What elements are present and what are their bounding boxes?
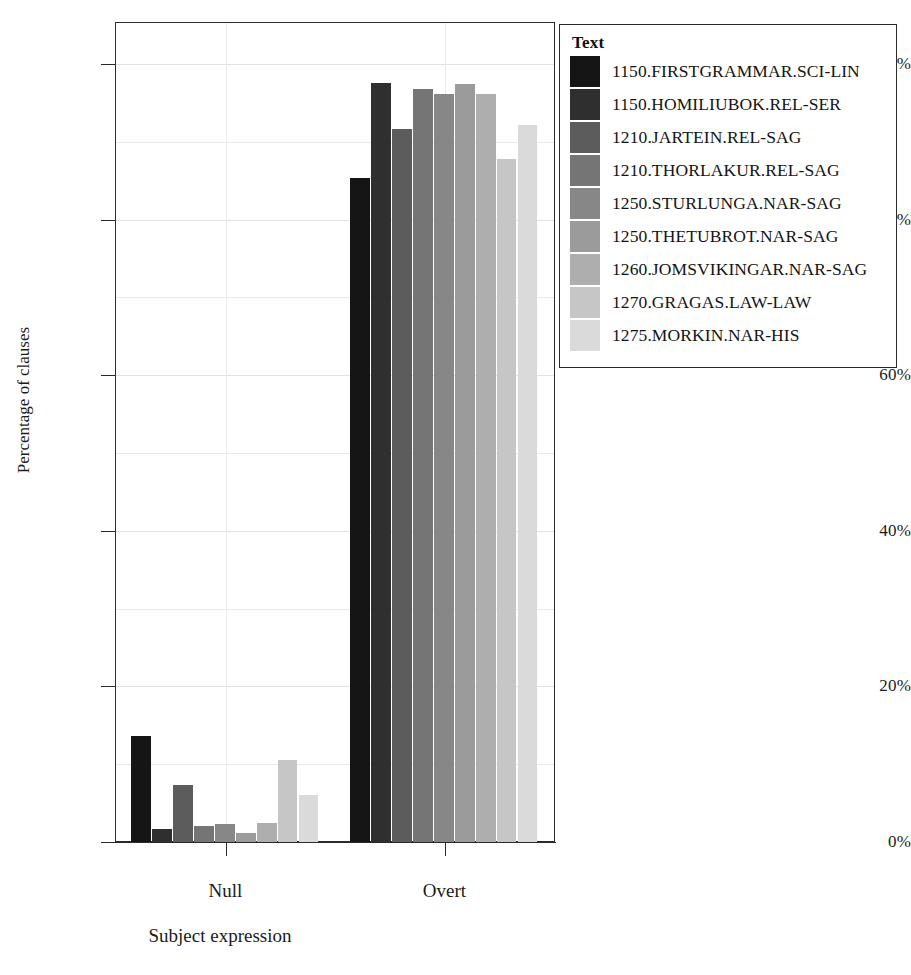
legend-box: Text 1150.FIRSTGRAMMAR.SCI-LIN1150.HOMIL…: [559, 24, 897, 368]
legend-item-label: 1275.MORKIN.NAR-HIS: [612, 325, 800, 346]
legend-item-label: 1250.THETUBROT.NAR-SAG: [612, 226, 838, 247]
legend-swatch-icon: [570, 56, 600, 87]
bar: [413, 89, 433, 842]
bar: [131, 736, 151, 842]
bar: [434, 94, 454, 842]
bar: [215, 824, 235, 842]
bar: [278, 760, 298, 842]
bar: [371, 83, 391, 842]
y-axis-title: Percentage of clauses: [14, 290, 34, 510]
bar: [455, 84, 475, 842]
legend-item-label: 1210.THORLAKUR.REL-SAG: [612, 160, 840, 181]
bar-chart-figure: 0%20%40%60%80%100% Percentage of clauses…: [0, 0, 911, 975]
bar: [152, 829, 172, 842]
legend-item[interactable]: 1250.STURLUNGA.NAR-SAG: [570, 187, 886, 220]
legend-swatch-icon: [570, 188, 600, 219]
bar: [299, 795, 319, 842]
legend-swatch-icon: [570, 254, 600, 285]
legend-item-label: 1150.HOMILIUBOK.REL-SER: [612, 94, 841, 115]
x-axis-tick-label: Overt: [423, 880, 466, 902]
y-axis-tick: [101, 531, 115, 532]
bar: [236, 833, 256, 842]
legend-swatch-icon: [570, 122, 600, 153]
bar: [518, 125, 538, 842]
y-axis-tick-label: 0%: [819, 833, 911, 850]
legend-item[interactable]: 1250.THETUBROT.NAR-SAG: [570, 220, 886, 253]
x-axis-tick: [226, 843, 227, 856]
legend-swatch-icon: [570, 155, 600, 186]
y-axis-tick: [101, 375, 115, 376]
bar: [257, 823, 277, 842]
legend-item[interactable]: 1150.HOMILIUBOK.REL-SER: [570, 88, 886, 121]
bar: [194, 826, 214, 842]
legend-item[interactable]: 1270.GRAGAS.LAW-LAW: [570, 286, 886, 319]
y-axis-tick-label: 20%: [819, 677, 911, 694]
x-axis-tick-label: Null: [209, 880, 243, 902]
legend-item[interactable]: 1260.JOMSVIKINGAR.NAR-SAG: [570, 253, 886, 286]
legend-item[interactable]: 1210.THORLAKUR.REL-SAG: [570, 154, 886, 187]
legend-item[interactable]: 1275.MORKIN.NAR-HIS: [570, 319, 886, 352]
bar: [392, 129, 412, 842]
bar: [350, 178, 370, 842]
y-axis-tick-label: 40%: [819, 522, 911, 539]
y-axis-tick: [101, 686, 115, 687]
legend-item-label: 1210.JARTEIN.REL-SAG: [612, 127, 802, 148]
legend-item[interactable]: 1150.FIRSTGRAMMAR.SCI-LIN: [570, 55, 886, 88]
legend-item-label: 1150.FIRSTGRAMMAR.SCI-LIN: [612, 61, 860, 82]
y-axis-tick: [101, 64, 115, 65]
x-axis-title: Subject expression: [100, 925, 340, 947]
y-axis-tick: [101, 842, 115, 843]
legend-swatch-icon: [570, 89, 600, 120]
bars-layer: [116, 23, 554, 842]
legend-swatch-icon: [570, 287, 600, 318]
legend-item-label: 1250.STURLUNGA.NAR-SAG: [612, 193, 842, 214]
bar: [173, 785, 193, 842]
x-axis-line: [115, 842, 556, 843]
y-axis-tick-label: 60%: [819, 366, 911, 383]
bar: [476, 94, 496, 842]
y-axis-tick: [101, 220, 115, 221]
legend-item-label: 1270.GRAGAS.LAW-LAW: [612, 292, 811, 313]
legend-swatch-icon: [570, 221, 600, 252]
legend-title: Text: [572, 33, 886, 53]
legend-items: 1150.FIRSTGRAMMAR.SCI-LIN1150.HOMILIUBOK…: [570, 55, 886, 352]
legend-item-label: 1260.JOMSVIKINGAR.NAR-SAG: [612, 259, 867, 280]
legend-item[interactable]: 1210.JARTEIN.REL-SAG: [570, 121, 886, 154]
legend-swatch-icon: [570, 320, 600, 351]
x-axis-tick: [445, 843, 446, 856]
bar: [497, 159, 517, 842]
